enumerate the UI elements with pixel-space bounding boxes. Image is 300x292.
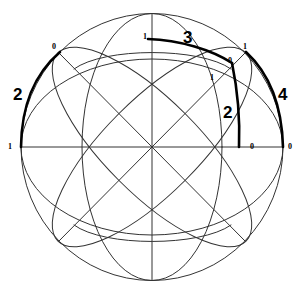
label-arc-two-left: 2 (13, 86, 22, 103)
construction-lines (21, 14, 283, 281)
label-inner-one: 1 (210, 74, 214, 82)
label-inner-zero: 0 (228, 57, 232, 65)
label-arc-four: 4 (278, 86, 287, 103)
bold-arc-two-left (21, 52, 60, 147)
label-upper-left-zero: 0 (52, 43, 56, 51)
label-arc-two-inner: 2 (223, 104, 232, 121)
label-left-one: 1 (8, 143, 12, 151)
label-top-one: 1 (143, 33, 147, 41)
bold-arc-two-inner (232, 63, 239, 147)
label-arc-three: 3 (183, 29, 192, 46)
label-right-zero-outer: 0 (288, 143, 292, 151)
diagram-canvas: 1 0 1 0 1 1 0 0 2 3 2 4 (0, 0, 300, 292)
spherical-projection-figure (0, 0, 300, 292)
label-right-zero-inner: 0 (250, 143, 254, 151)
label-upper-right-one: 1 (243, 43, 247, 51)
